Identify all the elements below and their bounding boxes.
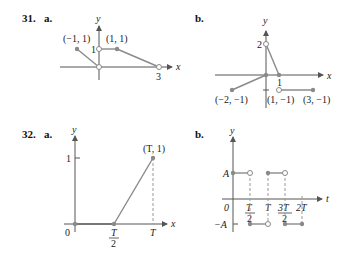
open-point: [277, 88, 282, 93]
y-axis-label: y: [95, 13, 101, 24]
part-label-32b: b.: [195, 128, 204, 140]
problem-number-31: 31.: [22, 12, 36, 24]
y-axis-label: y: [229, 125, 235, 136]
closed-point: [231, 171, 235, 175]
graph-31b: b. x y 2 1 (−2, −1) (1, −1) (3, −1): [195, 12, 332, 108]
closed-point: [230, 88, 234, 92]
part-label-32a: a.: [44, 128, 53, 140]
open-point: [248, 171, 253, 176]
tick-label-A: A: [222, 168, 230, 179]
closed-point: [112, 222, 116, 226]
closed-point: [73, 222, 77, 226]
segment: [117, 49, 159, 67]
y-axis-label: y: [262, 15, 268, 26]
tick-label-T-numerator: T: [111, 227, 118, 238]
tick-label-2: 2: [257, 39, 262, 50]
tick-label-T: T: [150, 227, 157, 238]
open-point: [266, 222, 271, 227]
origin-label: 0: [65, 227, 70, 238]
x-axis-label: x: [175, 61, 181, 72]
figure-canvas: 31. a. x y 1 3 (−1, 1) (1, 1) b. x y 2 1…: [0, 0, 350, 259]
t-axis-label: t: [326, 193, 329, 204]
x-axis-label: x: [326, 70, 332, 81]
point-label-1-1: (1, 1): [106, 33, 128, 45]
closed-point: [75, 47, 79, 51]
segment: [232, 75, 266, 90]
closed-point: [311, 88, 315, 92]
open-point: [97, 47, 102, 52]
point-label-neg1-1: (−1, 1): [63, 33, 90, 45]
graph-31a: 31. a. x y 1 3 (−1, 1) (1, 1): [22, 12, 181, 82]
open-point: [264, 42, 269, 47]
point-label-T-1: (T, 1): [143, 143, 165, 155]
tick-label-1: 1: [91, 44, 96, 55]
origin-label: 0: [224, 202, 229, 213]
tick-label-1: 1: [66, 153, 71, 164]
open-point: [157, 65, 162, 70]
closed-point: [266, 171, 270, 175]
y-axis-label: y: [71, 124, 77, 135]
segment: [114, 158, 153, 224]
closed-point: [300, 222, 304, 226]
segment: [266, 44, 279, 75]
graph-32b: b. t y A −A 0 T 2 T 3T 2 2T: [195, 125, 329, 232]
open-point: [97, 65, 102, 70]
tick-label-3T-half-num: 3T: [277, 202, 290, 213]
tick-label-3: 3: [156, 71, 161, 82]
tick-label-1: 1: [277, 77, 282, 88]
point-label-neg2-neg1: (−2, −1): [215, 94, 248, 106]
problem-number-32: 32.: [22, 128, 36, 140]
closed-point: [151, 156, 155, 160]
closed-point: [277, 73, 281, 77]
closed-point: [264, 73, 268, 77]
part-label-31a: a.: [44, 12, 53, 24]
closed-point: [283, 222, 287, 226]
closed-point: [115, 47, 119, 51]
closed-point: [248, 222, 252, 226]
part-label-31b: b.: [195, 12, 204, 24]
tick-label-neg-A: −A: [214, 219, 228, 230]
point-label-3-neg1: (3, −1): [303, 94, 330, 106]
open-point: [283, 171, 288, 176]
graph-32a: 32. a. x y 1 0 T 2 T (T, 1): [22, 124, 176, 249]
point-label-1-neg1: (1, −1): [267, 94, 294, 106]
x-axis-label: x: [170, 218, 176, 229]
tick-label-T-denominator: 2: [111, 238, 116, 249]
